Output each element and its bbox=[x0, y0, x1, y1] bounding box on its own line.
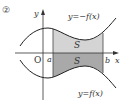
diagram-canvas: ② y y=−f(x) S O a S b x y=f(x) bbox=[0, 0, 123, 103]
y-axis-label: y bbox=[33, 9, 39, 18]
lower-area-label: S bbox=[74, 56, 80, 66]
origin-label: O bbox=[34, 55, 41, 65]
b-label: b bbox=[105, 56, 110, 65]
x-axis-label: x bbox=[115, 56, 120, 65]
upper-curve-label: y=−f(x) bbox=[67, 12, 100, 21]
area-diagram: ② y y=−f(x) S O a S b x y=f(x) bbox=[0, 0, 123, 103]
upper-area-label: S bbox=[74, 40, 80, 50]
y-axis-arrow-icon bbox=[41, 9, 45, 15]
a-label: a bbox=[47, 55, 52, 64]
x-axis-arrow-icon bbox=[113, 51, 119, 55]
lower-curve-label: y=f(x) bbox=[77, 89, 103, 98]
figure-number: ② bbox=[2, 5, 10, 15]
